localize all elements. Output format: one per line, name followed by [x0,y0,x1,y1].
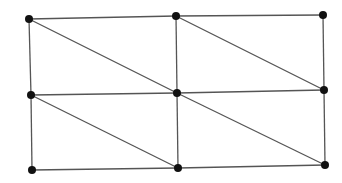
edge-horizontal-n00-n01 [29,16,176,19]
node-n12 [320,86,328,94]
edge-vertical-n12-n22 [324,90,325,165]
edge-horizontal-n21-n22 [178,165,325,168]
edge-horizontal-n11-n12 [177,90,324,93]
edge-diagonal-n01-n12 [176,16,324,90]
node-n22 [321,161,329,169]
edge-vertical-n01-n11 [176,16,177,93]
edge-horizontal-n01-n02 [176,15,323,16]
nodes-layer [25,11,329,174]
edge-diagonal-n00-n11 [29,19,177,93]
edge-horizontal-n10-n11 [31,93,177,95]
edge-diagonal-n11-n22 [177,93,325,165]
edge-horizontal-n20-n21 [32,168,178,170]
edge-vertical-n00-n10 [29,19,31,95]
node-n11 [173,89,181,97]
edge-vertical-n02-n12 [323,15,324,90]
edge-vertical-n11-n21 [177,93,178,168]
edge-diagonal-n10-n21 [31,95,178,168]
node-n02 [319,11,327,19]
grid-graph-diagram [0,0,342,183]
node-n21 [174,164,182,172]
node-n00 [25,15,33,23]
edge-vertical-n10-n20 [31,95,32,170]
node-n01 [172,12,180,20]
node-n10 [27,91,35,99]
node-n20 [28,166,36,174]
